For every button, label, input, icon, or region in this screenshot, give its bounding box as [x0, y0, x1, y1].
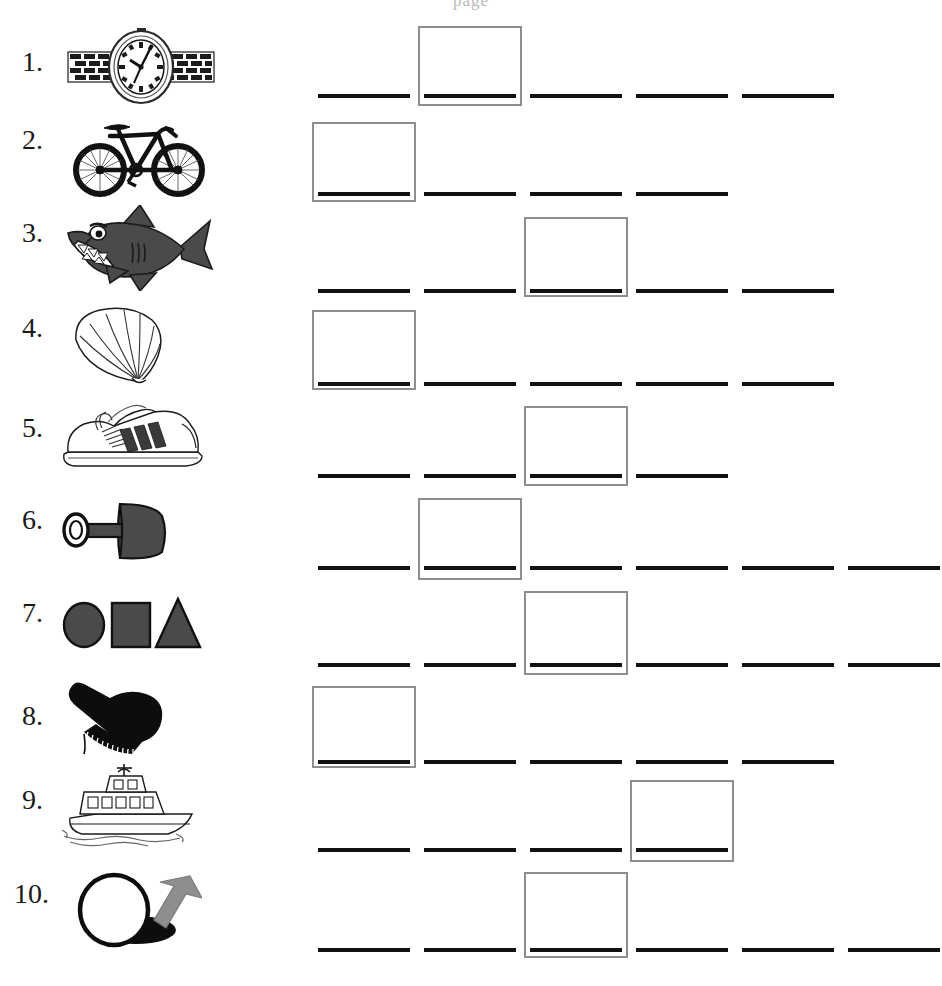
blank-line[interactable]: [424, 382, 516, 386]
blank-line-boxed[interactable]: [530, 948, 622, 952]
highlight-box[interactable]: [312, 310, 416, 390]
shapes-illustration: [62, 595, 202, 651]
blank-line[interactable]: [742, 760, 834, 764]
worksheet-row: 1.: [0, 18, 942, 108]
worksheet-row: 7.: [0, 585, 942, 677]
hole-illustration: [62, 872, 202, 948]
blank-group: [318, 678, 878, 768]
row-number: 9.: [22, 784, 43, 816]
shark-illustration: [62, 205, 214, 291]
worksheet-row: 6.: [0, 490, 942, 580]
worksheet-page: page 1.: [0, 0, 942, 986]
blank-line[interactable]: [636, 760, 728, 764]
worksheet-row: 8.: [0, 678, 942, 768]
blank-group: [318, 585, 938, 677]
blank-line[interactable]: [742, 382, 834, 386]
blank-line[interactable]: [424, 663, 516, 667]
blank-line[interactable]: [530, 192, 622, 196]
highlight-box[interactable]: [524, 872, 628, 958]
blank-line[interactable]: [636, 382, 728, 386]
worksheet-row: 5.: [0, 398, 942, 486]
row-number: 10.: [14, 878, 49, 910]
blank-line[interactable]: [742, 94, 834, 98]
row-number: 7.: [22, 597, 43, 629]
hole-rim: [80, 875, 148, 945]
blank-line[interactable]: [848, 566, 940, 570]
shell-illustration: [66, 304, 178, 388]
blank-line[interactable]: [848, 948, 940, 952]
triangle-shape: [156, 599, 200, 647]
blank-line[interactable]: [318, 94, 410, 98]
blank-line[interactable]: [636, 566, 728, 570]
square-shape: [112, 603, 150, 647]
page-header-remnant: page: [0, 0, 942, 11]
blank-group: [318, 398, 788, 486]
blank-line[interactable]: [530, 848, 622, 852]
blank-line-boxed[interactable]: [318, 382, 410, 386]
ship-illustration: [60, 764, 210, 854]
blank-line-boxed[interactable]: [636, 848, 728, 852]
blank-line-boxed[interactable]: [424, 94, 516, 98]
blank-line[interactable]: [424, 760, 516, 764]
worksheet-row: 4.: [0, 300, 942, 390]
highlight-box[interactable]: [312, 122, 416, 202]
blank-group: [318, 205, 878, 297]
blank-group: [318, 490, 938, 580]
blank-group: [318, 772, 788, 862]
blank-line[interactable]: [636, 94, 728, 98]
blank-line[interactable]: [318, 948, 410, 952]
highlight-box[interactable]: [312, 686, 416, 768]
blank-line[interactable]: [318, 848, 410, 852]
arrow-icon: [154, 876, 202, 928]
blank-line[interactable]: [318, 566, 410, 570]
shoe-illustration: [58, 402, 210, 474]
blank-line[interactable]: [848, 663, 940, 667]
blank-line-boxed[interactable]: [530, 474, 622, 478]
blank-line[interactable]: [424, 848, 516, 852]
blank-line[interactable]: [742, 289, 834, 293]
blank-line[interactable]: [318, 289, 410, 293]
row-number: 6.: [22, 504, 43, 536]
blank-line[interactable]: [318, 474, 410, 478]
row-number: 3.: [22, 217, 43, 249]
blank-line-boxed[interactable]: [530, 289, 622, 293]
row-number: 2.: [22, 124, 43, 156]
blank-group: [318, 18, 878, 108]
row-number: 8.: [22, 700, 43, 732]
blank-line[interactable]: [424, 948, 516, 952]
blank-line[interactable]: [636, 948, 728, 952]
shovel-illustration: [58, 502, 188, 562]
blank-line-boxed[interactable]: [424, 566, 516, 570]
blank-line[interactable]: [318, 663, 410, 667]
worksheet-row: 10.: [0, 866, 942, 960]
circle-shape: [64, 603, 104, 647]
blank-line[interactable]: [742, 566, 834, 570]
blank-group: [318, 112, 788, 200]
blank-group: [318, 866, 938, 960]
blank-group: [318, 300, 878, 390]
blank-line[interactable]: [424, 192, 516, 196]
blank-line[interactable]: [636, 663, 728, 667]
blank-line[interactable]: [424, 289, 516, 293]
blank-line[interactable]: [636, 289, 728, 293]
row-number: 5.: [22, 412, 43, 444]
blank-line[interactable]: [742, 948, 834, 952]
blank-line[interactable]: [424, 474, 516, 478]
row-number: 4.: [22, 312, 43, 344]
worksheet-row: 9.: [0, 772, 942, 862]
bicycle-illustration: [66, 116, 216, 198]
blank-line[interactable]: [530, 94, 622, 98]
blank-line[interactable]: [636, 474, 728, 478]
blank-line-boxed[interactable]: [318, 760, 410, 764]
blank-line[interactable]: [530, 566, 622, 570]
blank-line-boxed[interactable]: [530, 663, 622, 667]
worksheet-row: 2.: [0, 112, 942, 200]
brush-illustration: [62, 680, 192, 764]
highlight-box[interactable]: [524, 217, 628, 297]
blank-line[interactable]: [636, 192, 728, 196]
blank-line[interactable]: [742, 663, 834, 667]
blank-line[interactable]: [530, 760, 622, 764]
blank-line-boxed[interactable]: [318, 192, 410, 196]
watch-illustration: [60, 26, 220, 108]
blank-line[interactable]: [530, 382, 622, 386]
